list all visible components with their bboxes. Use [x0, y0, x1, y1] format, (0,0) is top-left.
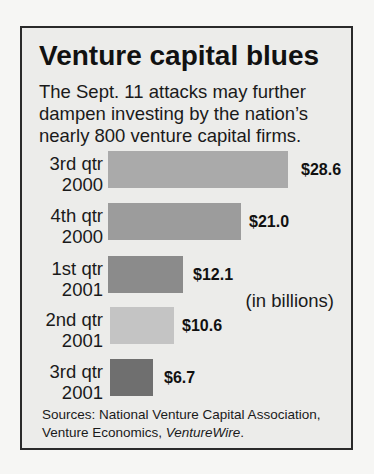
- sources-text: .: [240, 425, 244, 440]
- bar: [110, 307, 174, 344]
- value-label: $21.0: [249, 213, 289, 231]
- category-label-line: 4th qtr: [51, 205, 103, 226]
- category-label: 2nd qtr 2001: [45, 309, 103, 351]
- value-label: $28.6: [301, 161, 341, 179]
- chart-subtitle: The Sept. 11 attacks may further dampen …: [39, 81, 349, 147]
- chart-title: Venture capital blues: [39, 40, 319, 72]
- chart-frame: Venture capital blues The Sept. 11 attac…: [20, 26, 353, 450]
- category-label-line: 2000: [51, 226, 103, 247]
- sources-note: Sources: National Venture Capital Associ…: [42, 406, 352, 442]
- category-label-line: 2000: [50, 174, 103, 195]
- value-label: $6.7: [164, 369, 195, 387]
- value-label: $12.1: [193, 266, 233, 284]
- category-label-line: 2001: [52, 279, 103, 300]
- bar: [108, 256, 183, 293]
- category-label: 1st qtr 2001: [52, 258, 103, 300]
- sources-text: Venture Economics,: [42, 425, 166, 440]
- bar-row: 3rd qtr 2000 $28.6: [22, 151, 351, 201]
- category-label-line: 2001: [45, 330, 103, 351]
- subtitle-line: The Sept. 11 attacks may further: [39, 81, 349, 103]
- sources-line: Venture Economics, VentureWire.: [42, 424, 352, 442]
- category-label-line: 1st qtr: [52, 258, 103, 279]
- bar-row: 4th qtr 2000 $21.0: [22, 203, 351, 253]
- bar: [108, 151, 288, 188]
- category-label-line: 3rd qtr: [50, 153, 103, 174]
- category-label-line: 2001: [50, 382, 103, 403]
- category-label: 3rd qtr 2000: [50, 153, 103, 195]
- subtitle-line: nearly 800 venture capital firms.: [39, 125, 349, 147]
- value-label: $10.6: [182, 317, 222, 335]
- bar-row: 2nd qtr 2001 $10.6: [22, 307, 351, 357]
- category-label-line: 3rd qtr: [50, 361, 103, 382]
- category-label-line: 2nd qtr: [45, 309, 103, 330]
- bar-row: 3rd qtr 2001 $6.7: [22, 359, 351, 409]
- sources-publication: VentureWire: [166, 425, 240, 440]
- sources-line: Sources: National Venture Capital Associ…: [42, 406, 352, 424]
- category-label: 3rd qtr 2001: [50, 361, 103, 403]
- bar: [110, 359, 153, 396]
- subtitle-line: dampen investing by the nation’s: [39, 103, 349, 125]
- bar: [108, 203, 241, 240]
- category-label: 4th qtr 2000: [51, 205, 103, 247]
